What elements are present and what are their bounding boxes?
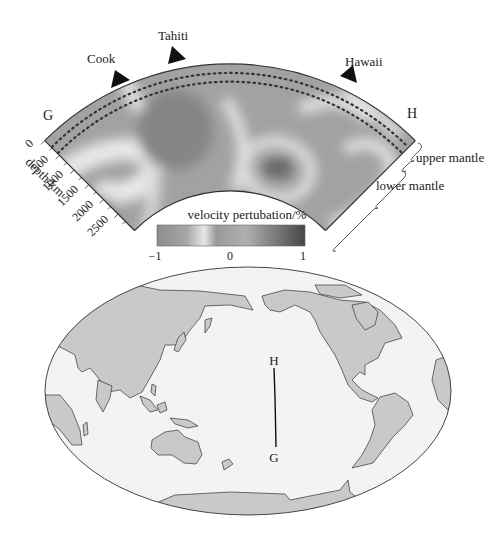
depth-tick-0: 0 (22, 136, 36, 150)
station-label-tahiti: Tahiti (158, 28, 189, 43)
lower-mantle-label: lower mantle (376, 178, 444, 193)
endpoint-label-h: H (407, 106, 417, 121)
station-label-hawaii: Hawaii (345, 54, 383, 69)
station-marker-tahiti-icon (168, 46, 186, 64)
colorbar-tick-min: −1 (149, 249, 162, 263)
colorbar-title: velocity pertubation/% (188, 207, 307, 222)
upper-mantle-label: upper mantle (416, 150, 484, 165)
colorbar: velocity pertubation/% −1 0 1 (149, 207, 307, 263)
endpoint-label-g: G (43, 108, 53, 123)
depth-tick-2500: 2500 (84, 212, 111, 239)
map-label-h: H (269, 353, 278, 368)
colorbar-tick-max: 1 (300, 249, 306, 263)
colorbar-gradient (157, 225, 305, 246)
tomography-figure: Cook Tahiti Hawaii G H 0 500 1000 1500 2… (0, 0, 497, 546)
colorbar-tick-mid: 0 (227, 249, 233, 263)
station-label-cook: Cook (87, 51, 116, 66)
map-label-g: G (269, 450, 278, 465)
world-map: H G (40, 267, 455, 520)
